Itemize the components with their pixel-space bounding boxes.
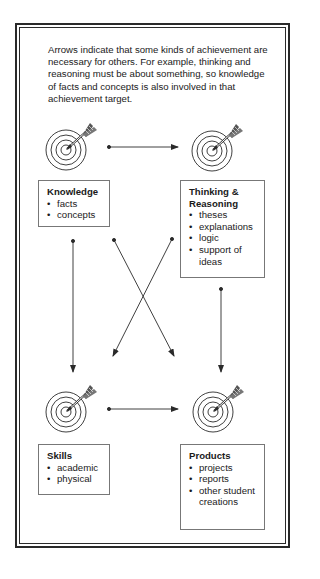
- node-items: projects reports other student creations: [189, 462, 258, 508]
- node-thinking-reasoning: Thinking & Reasoning theses explanations…: [180, 180, 265, 278]
- arrow-thinking-to-products: [219, 287, 222, 372]
- node-title: Thinking & Reasoning: [189, 186, 258, 209]
- arrow-knowledge-to-thinking: [107, 145, 178, 148]
- list-item: academic: [47, 462, 103, 474]
- node-knowledge: Knowledge facts concepts: [38, 180, 110, 227]
- node-items: facts concepts: [47, 198, 103, 221]
- list-item: other student creations: [189, 485, 258, 508]
- list-item: theses: [189, 209, 258, 221]
- node-title: Products: [189, 450, 258, 462]
- list-item: concepts: [47, 209, 103, 221]
- target-icon-thinking: [192, 124, 243, 171]
- list-item: support of ideas: [189, 244, 258, 267]
- list-item: reports: [189, 473, 258, 485]
- arrow-knowledge-to-skills: [71, 239, 74, 372]
- list-item: logic: [189, 232, 258, 244]
- node-title: Knowledge: [47, 186, 103, 198]
- target-icon-knowledge: [46, 123, 97, 170]
- arrow-skills-to-products: [107, 407, 178, 410]
- list-item: projects: [189, 462, 258, 474]
- node-items: academic physical: [47, 462, 103, 485]
- node-skills: Skills academic physical: [38, 444, 110, 495]
- list-item: facts: [47, 198, 103, 210]
- target-icon-products: [193, 385, 244, 432]
- target-icon-skills: [46, 385, 97, 432]
- node-products: Products projects reports other student …: [180, 444, 265, 530]
- node-title: Skills: [47, 450, 103, 462]
- list-item: physical: [47, 473, 103, 485]
- node-items: theses explanations logic support of ide…: [189, 209, 258, 267]
- list-item: explanations: [189, 221, 258, 233]
